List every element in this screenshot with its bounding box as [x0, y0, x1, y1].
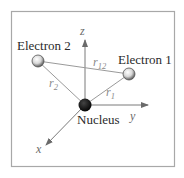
- electron-2-label: Electron 2: [17, 38, 71, 53]
- y-axis-label: y: [129, 109, 136, 123]
- nucleus-sphere: [79, 99, 92, 112]
- r12-subscript: 12: [98, 61, 107, 71]
- electron-2-sphere: [32, 55, 44, 67]
- electron-1-label: Electron 1: [118, 52, 172, 67]
- r1-subscript: 1: [111, 91, 115, 101]
- z-axis-label: z: [79, 24, 85, 38]
- electron-1-sphere: [123, 68, 135, 80]
- atom-diagram: z y x r12 r2 r1 Electron 2 Electron 1 Nu…: [0, 0, 184, 178]
- nucleus-label: Nucleus: [77, 112, 120, 127]
- x-axis-label: x: [35, 142, 42, 156]
